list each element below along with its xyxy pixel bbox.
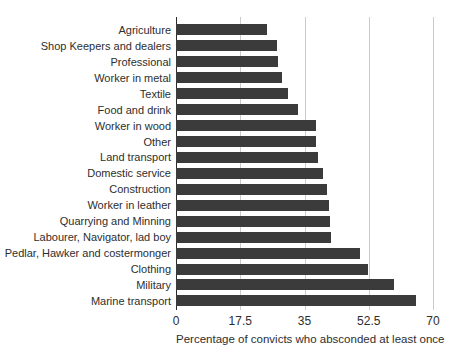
category-label: Worker in metal <box>0 72 176 84</box>
bar-row: Food and drink <box>0 102 433 118</box>
bar-track <box>176 152 433 163</box>
bar-track <box>176 104 433 115</box>
bar-row: Professional <box>0 54 433 70</box>
category-label: Domestic service <box>0 167 176 179</box>
category-label: Shop Keepers and dealers <box>0 40 176 52</box>
x-axis-title: Percentage of convicts who absconded at … <box>176 333 433 345</box>
bar-row: Domestic service <box>0 165 433 181</box>
bar-row: Clothing <box>0 261 433 277</box>
bar-row: Textile <box>0 86 433 102</box>
bar-row: Construction <box>0 181 433 197</box>
bar-track <box>176 120 433 131</box>
bar-row: Land transport <box>0 150 433 166</box>
bar-track <box>176 200 433 211</box>
category-label: Construction <box>0 183 176 195</box>
bar <box>176 200 329 211</box>
bar <box>176 56 278 67</box>
bar-track <box>176 264 433 275</box>
gridline <box>433 17 434 310</box>
bar-track <box>176 24 433 35</box>
bar-row: Agriculture <box>0 22 433 38</box>
bar-track <box>176 168 433 179</box>
bar-rows: AgricultureShop Keepers and dealersProfe… <box>0 22 433 309</box>
x-tick-label: 17.5 <box>229 314 252 328</box>
category-label: Labourer, Navigator, lad boy <box>0 231 176 243</box>
bar-track <box>176 295 433 306</box>
bar <box>176 216 330 227</box>
x-tick-label: 35 <box>298 314 311 328</box>
bar-track <box>176 279 433 290</box>
bar-row: Other <box>0 134 433 150</box>
bar-chart-figure: AgricultureShop Keepers and dealersProfe… <box>0 0 457 354</box>
bar-row: Marine transport <box>0 293 433 309</box>
category-label: Quarrying and Minning <box>0 215 176 227</box>
x-tick-label: 70 <box>426 314 439 328</box>
bar-track <box>176 248 433 259</box>
bar-row: Worker in metal <box>0 70 433 86</box>
bar <box>176 248 360 259</box>
bar <box>176 279 394 290</box>
bar-row: Shop Keepers and dealers <box>0 38 433 54</box>
category-label: Agriculture <box>0 24 176 36</box>
bar-row: Worker in wood <box>0 118 433 134</box>
bar <box>176 232 331 243</box>
x-tick-label: 52.5 <box>357 314 380 328</box>
bar-track <box>176 88 433 99</box>
bar <box>176 264 368 275</box>
category-label: Pedlar, Hawker and costermonger <box>0 247 176 259</box>
bar <box>176 104 298 115</box>
bar-row: Quarrying and Minning <box>0 213 433 229</box>
bar-track <box>176 232 433 243</box>
bar <box>176 88 288 99</box>
bar <box>176 120 316 131</box>
category-label: Textile <box>0 88 176 100</box>
bar <box>176 152 318 163</box>
category-label: Food and drink <box>0 104 176 116</box>
category-label: Worker in leather <box>0 199 176 211</box>
bar <box>176 24 267 35</box>
category-label: Worker in wood <box>0 120 176 132</box>
bar-row: Labourer, Navigator, lad boy <box>0 229 433 245</box>
bar <box>176 72 282 83</box>
category-label: Land transport <box>0 151 176 163</box>
bar <box>176 295 416 306</box>
bar <box>176 40 277 51</box>
bar-track <box>176 216 433 227</box>
bar-track <box>176 56 433 67</box>
x-tick-label: 0 <box>173 314 180 328</box>
bar-row: Military <box>0 277 433 293</box>
x-axis-tick-labels: 017.53552.570 <box>176 314 433 329</box>
category-label: Other <box>0 136 176 148</box>
category-label: Clothing <box>0 263 176 275</box>
bar-track <box>176 136 433 147</box>
bar-track <box>176 72 433 83</box>
category-label: Marine transport <box>0 295 176 307</box>
bar <box>176 136 316 147</box>
bar-row: Worker in leather <box>0 197 433 213</box>
bar <box>176 168 323 179</box>
category-label: Military <box>0 279 176 291</box>
category-label: Professional <box>0 56 176 68</box>
bar-row: Pedlar, Hawker and costermonger <box>0 245 433 261</box>
bar <box>176 184 327 195</box>
bar-track <box>176 184 433 195</box>
bar-track <box>176 40 433 51</box>
